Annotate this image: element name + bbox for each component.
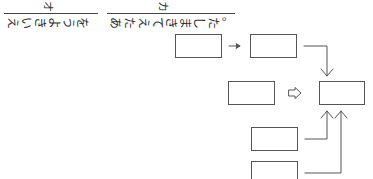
arrow-right-icon: [229, 44, 240, 49]
elbow-arrow-up-icon: [305, 111, 333, 139]
diagram-connectors: [0, 0, 373, 179]
elbow-arrow-down-icon: [304, 46, 333, 76]
elbow-arrow-up-icon: [305, 111, 347, 173]
hollow-arrow-right-icon: [289, 88, 301, 99]
